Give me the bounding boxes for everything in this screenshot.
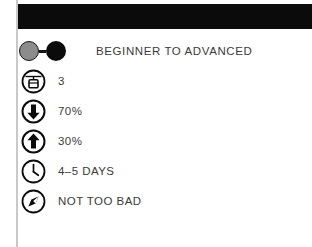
- gondola-icon: [18, 66, 58, 96]
- gray-dot-icon: [19, 41, 39, 61]
- spec-value-downhill: 70%: [58, 96, 82, 126]
- spec-row-downhill: 70%: [18, 96, 312, 126]
- spec-value-conditions: NOT TOO BAD: [58, 186, 142, 216]
- spec-value-difficulty: BEGINNER TO ADVANCED: [96, 36, 252, 66]
- header-black-band: [18, 4, 312, 29]
- dot-connector: [39, 50, 46, 53]
- spec-value-duration: 4–5 DAYS: [58, 156, 114, 186]
- arrow-up-circle-icon: [18, 126, 58, 156]
- clock-icon: [18, 156, 58, 186]
- spec-value-uphill: 30%: [58, 126, 82, 156]
- spec-row-duration: 4–5 DAYS: [18, 156, 312, 186]
- arrow-down-circle-icon: [18, 96, 58, 126]
- tour-spec-card: BEGINNER TO ADVANCED 3: [0, 0, 312, 247]
- spec-row-lifts: 3: [18, 66, 312, 96]
- spec-row-conditions: NOT TOO BAD: [18, 186, 312, 216]
- spec-value-lifts: 3: [58, 66, 65, 96]
- difficulty-dots-icon: [18, 36, 96, 66]
- spec-list: BEGINNER TO ADVANCED 3: [18, 36, 312, 216]
- compass-icon: [18, 186, 58, 216]
- spec-row-uphill: 30%: [18, 126, 312, 156]
- spec-row-difficulty: BEGINNER TO ADVANCED: [18, 36, 312, 66]
- black-dot-icon: [46, 41, 66, 61]
